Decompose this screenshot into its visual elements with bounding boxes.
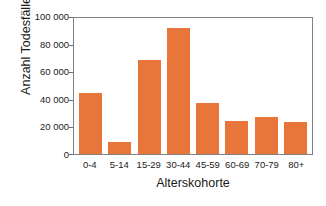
bar-chart: Anzahl Todesfälle 020 00040 00060 00080 … — [0, 0, 326, 206]
bar-slot — [222, 18, 251, 154]
bar-slot — [76, 18, 105, 154]
bar-slot — [252, 18, 281, 154]
x-axis-tick-label: 30-44 — [164, 159, 194, 170]
bar-45-59 — [196, 103, 219, 154]
x-axis-tick-label: 45-59 — [193, 159, 223, 170]
plot-area — [73, 17, 313, 155]
bar-70-79 — [255, 117, 278, 154]
bar-80+ — [284, 122, 307, 154]
x-axis-title: Alterskohorte — [73, 176, 313, 190]
y-axis-tick-label: 60 000 — [20, 67, 69, 77]
y-axis-tick-label: 40 000 — [20, 95, 69, 105]
x-axis-tick-label: 80+ — [282, 159, 312, 170]
x-axis-tick-label: 70-79 — [252, 159, 282, 170]
y-axis-tick-label: 20 000 — [20, 122, 69, 132]
bar-0-4 — [79, 93, 102, 154]
x-axis-tick-label: 60-69 — [223, 159, 253, 170]
bars-layer — [74, 18, 312, 154]
bar-slot — [193, 18, 222, 154]
bar-5-14 — [108, 142, 131, 154]
y-axis-tick-label: 80 000 — [20, 40, 69, 50]
x-axis-tick-label: 15-29 — [134, 159, 164, 170]
bar-slot — [164, 18, 193, 154]
y-axis-tick-label: 100 000 — [20, 12, 69, 22]
bar-60-69 — [225, 121, 248, 154]
x-axis-tick-labels: 0-45-1415-2930-4445-5960-6970-7980+ — [73, 159, 313, 170]
bar-15-29 — [138, 60, 161, 154]
x-axis-tick-label: 0-4 — [75, 159, 105, 170]
bar-slot — [281, 18, 310, 154]
bar-slot — [105, 18, 134, 154]
y-axis-tick-labels: 020 00040 00060 00080 000100 000 — [20, 17, 69, 155]
bar-30-44 — [167, 28, 190, 154]
x-axis-tick-label: 5-14 — [105, 159, 135, 170]
y-axis-tick-label: 0 — [20, 150, 69, 160]
bar-slot — [135, 18, 164, 154]
